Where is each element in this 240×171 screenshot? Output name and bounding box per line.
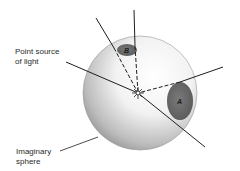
region-b-label: B [124,47,129,54]
sphere-label-pointer [60,137,98,151]
diagram-canvas: A B [0,0,240,171]
imaginary-sphere-label: Imaginary sphere [16,147,51,167]
point-source-label: Point source of light [15,47,59,67]
ray-upper-left-outer [96,18,114,48]
region-a-label: A [176,98,182,105]
